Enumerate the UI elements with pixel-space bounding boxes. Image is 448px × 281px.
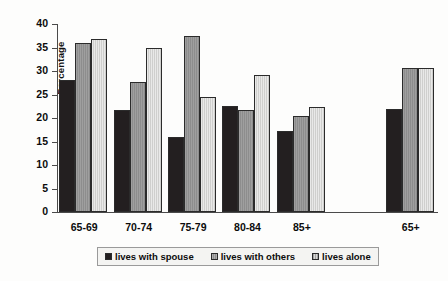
- bar-group: [220, 24, 274, 212]
- y-axis-tick-label: 0: [22, 205, 48, 217]
- y-axis-tick-label: 25: [22, 88, 48, 100]
- bar: [130, 82, 146, 212]
- bar: [277, 131, 293, 212]
- bar: [59, 80, 75, 212]
- x-axis-label: 65+: [384, 221, 438, 233]
- bar: [146, 48, 162, 212]
- legend-label: lives with spouse: [115, 251, 194, 262]
- bar: [402, 68, 418, 212]
- y-axis-tick-label: 15: [22, 135, 48, 147]
- bar: [168, 137, 184, 212]
- bar: [114, 110, 130, 212]
- y-axis-tick-label: 20: [22, 111, 48, 123]
- bar-group: [275, 24, 329, 212]
- legend-swatch-icon: [211, 253, 218, 260]
- legend-swatch-icon: [312, 253, 319, 260]
- x-axis-label: 85+: [275, 221, 329, 233]
- legend-label: lives alone: [322, 251, 371, 262]
- bar: [309, 107, 325, 212]
- bar: [386, 109, 402, 212]
- bar-group: [329, 24, 383, 212]
- bar: [222, 106, 238, 212]
- bar-group: [57, 24, 111, 212]
- chart-legend: lives with spouselives with otherslives …: [97, 247, 379, 266]
- bar: [254, 75, 270, 212]
- bar-group: [111, 24, 165, 212]
- x-axis-label: 80-84: [220, 221, 274, 233]
- bar: [200, 97, 216, 212]
- legend-item[interactable]: lives with spouse: [105, 251, 194, 262]
- plot-area: 0510152025303540: [57, 24, 438, 212]
- y-axis-tick-label: 30: [22, 64, 48, 76]
- y-axis-tick-label: 40: [22, 17, 48, 29]
- x-axis-label: 65-69: [57, 221, 111, 233]
- x-axis-label: 75-79: [166, 221, 220, 233]
- legend-swatch-icon: [105, 253, 112, 260]
- bar: [418, 68, 434, 212]
- bar: [293, 116, 309, 212]
- y-axis-tick-label: 35: [22, 41, 48, 53]
- x-axis-label: 70-74: [111, 221, 165, 233]
- bar: [238, 110, 254, 212]
- x-axis-line: [57, 212, 438, 213]
- bar-group: [166, 24, 220, 212]
- legend-item[interactable]: lives alone: [312, 251, 371, 262]
- bar-group: [384, 24, 438, 212]
- y-axis-tick-label: 10: [22, 158, 48, 170]
- legend-item[interactable]: lives with others: [211, 251, 295, 262]
- bar-chart: Percentage 0510152025303540 65-6970-7475…: [0, 0, 448, 281]
- bar: [91, 39, 107, 212]
- y-axis-tick-label: 5: [22, 182, 48, 194]
- bar: [184, 36, 200, 212]
- bar: [75, 43, 91, 212]
- legend-label: lives with others: [221, 251, 295, 262]
- y-axis-tick: 0: [52, 212, 57, 213]
